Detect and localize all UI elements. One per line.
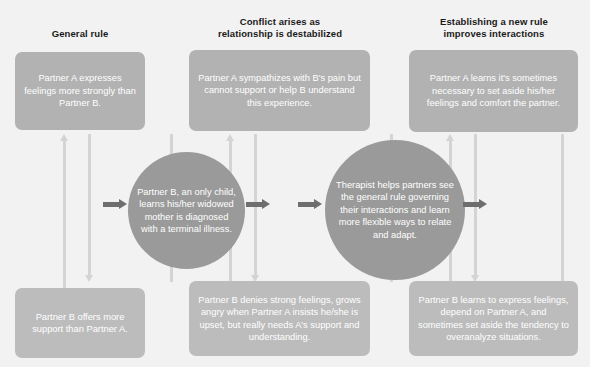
arrow-head-right-icon xyxy=(262,199,270,209)
arrow-shaft xyxy=(88,134,91,276)
top-box-general-rule: Partner A expresses feelings more strong… xyxy=(15,52,145,130)
up-arrow-column-1 xyxy=(60,134,69,290)
right-arrow-1 xyxy=(103,199,127,210)
bottom-box-new-rule: Partner B learns to express feelings, de… xyxy=(409,281,578,356)
column-heading-text-line1: Conflict arises as xyxy=(240,16,320,27)
circle-text: Partner B, an only child, learns his/her… xyxy=(136,186,237,236)
column-heading-general-rule: General rule xyxy=(15,28,145,40)
top-box-conflict: Partner A sympathizes with B's pain but … xyxy=(189,50,370,131)
top-box-text: Partner A sympathizes with B's pain but … xyxy=(197,72,362,109)
column-heading-text-line2: improves interactions xyxy=(444,28,545,39)
down-arrow-column-1 xyxy=(85,134,94,282)
connector-line-3 xyxy=(561,134,564,282)
column-heading-new-rule: Establishing a new rule improves interac… xyxy=(408,16,580,40)
bottom-box-text: Partner B offers more support than Partn… xyxy=(23,311,137,336)
circle-event: Partner B, an only child, learns his/her… xyxy=(128,152,245,269)
right-arrow-4 xyxy=(463,199,487,210)
arrow-shaft xyxy=(463,202,480,207)
arrow-head-right-icon xyxy=(314,199,322,209)
top-box-text: Partner A learns it's sometimes necessar… xyxy=(417,72,570,109)
arrow-shaft xyxy=(298,202,315,207)
right-arrow-3 xyxy=(298,199,322,210)
diagram-canvas: General rule Conflict arises as relation… xyxy=(0,0,590,367)
arrow-head-down-icon xyxy=(85,275,93,282)
bottom-box-conflict: Partner B denies strong feelings, grows … xyxy=(189,281,370,356)
top-box-new-rule: Partner A learns it's sometimes necessar… xyxy=(409,50,578,132)
column-heading-text-line1: Establishing a new rule xyxy=(440,16,548,27)
arrow-shaft xyxy=(63,140,66,290)
circle-intervention: Therapist helps partners see the general… xyxy=(325,140,465,280)
bottom-box-general-rule: Partner B offers more support than Partn… xyxy=(15,288,145,358)
column-heading-text-line2: relationship is destabilized xyxy=(218,28,342,39)
arrow-head-right-icon xyxy=(479,199,487,209)
top-box-text: Partner A expresses feelings more strong… xyxy=(23,72,137,109)
column-heading-conflict: Conflict arises as relationship is desta… xyxy=(190,16,370,40)
arrow-shaft xyxy=(103,202,120,207)
bottom-box-text: Partner B learns to express feelings, de… xyxy=(417,294,570,344)
column-heading-text: General rule xyxy=(52,28,109,39)
arrow-shaft xyxy=(246,202,263,207)
circle-text: Therapist helps partners see the general… xyxy=(333,179,457,241)
right-arrow-2 xyxy=(246,199,270,210)
arrow-head-right-icon xyxy=(119,199,127,209)
bottom-box-text: Partner B denies strong feelings, grows … xyxy=(197,294,362,344)
